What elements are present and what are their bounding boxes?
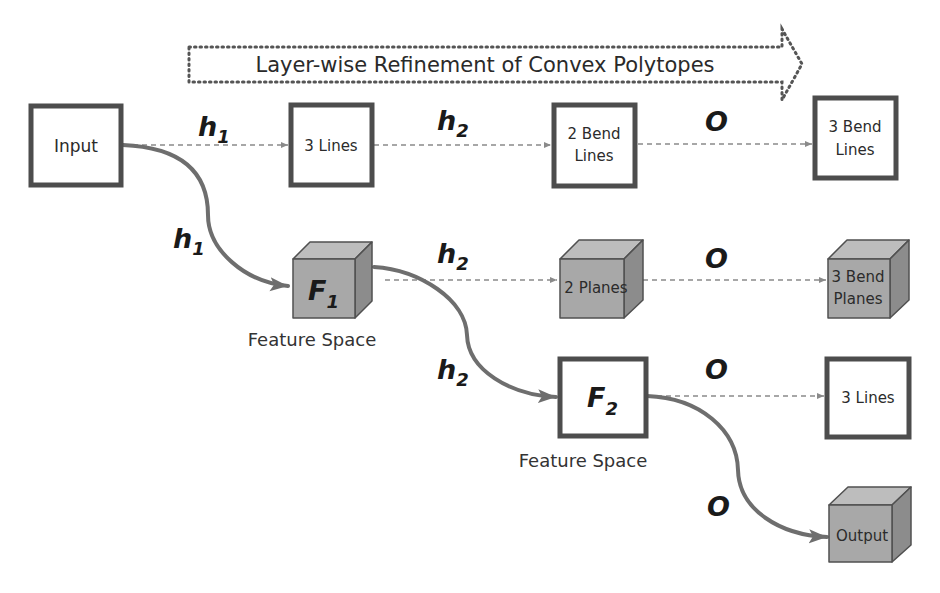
solid-curves [123, 145, 827, 537]
banner-title: Layer-wise Refinement of Convex Polytope… [255, 53, 714, 77]
node-row2-3-bend-planes-line1: 3 Bend [832, 268, 885, 286]
node-input: Input [31, 106, 121, 185]
node-row1-3-bend-lines-line2: Lines [835, 141, 874, 159]
node-f1-cube: F1 Feature Space [248, 242, 377, 350]
node-row2-2-planes-label: 2 Planes [564, 279, 627, 297]
node-f1-sub: 1 [326, 291, 339, 312]
label-curve-o: O [707, 491, 730, 522]
node-row3-3-lines: 3 Lines [827, 359, 909, 437]
node-row1-2-bend-lines-line2: Lines [574, 147, 613, 165]
node-f2-main: F [587, 382, 606, 413]
node-row1-3-lines: 3 Lines [291, 105, 372, 185]
label-curve-h1: h1 [173, 223, 205, 259]
node-output-cube: Output [829, 487, 911, 562]
node-row1-3-lines-label: 3 Lines [304, 137, 358, 155]
curve-input-to-f1 [123, 145, 288, 286]
node-row1-3-bend-lines: 3 Bend Lines [815, 98, 896, 178]
label-row1-h2: h2 [437, 105, 469, 141]
node-row3-3-lines-label: 3 Lines [841, 389, 895, 407]
curve-f2-to-output [647, 396, 827, 537]
polytope-refinement-diagram: Layer-wise Refinement of Convex Polytope… [0, 0, 940, 593]
label-row2-h2: h2 [437, 238, 469, 274]
node-row1-2-bend-lines: 2 Bend Lines [554, 105, 635, 186]
label-row3-o: O [705, 354, 728, 385]
node-input-label: Input [54, 136, 98, 156]
banner-arrow: Layer-wise Refinement of Convex Polytope… [189, 29, 802, 100]
node-row1-3-bend-lines-line1: 3 Bend [829, 118, 882, 136]
node-f2-caption: Feature Space [519, 450, 648, 471]
node-output-label: Output [836, 527, 888, 545]
node-row2-2-planes-cube: 2 Planes [560, 240, 643, 318]
node-row2-3-bend-planes-line2: Planes [834, 290, 883, 308]
node-row2-3-bend-planes-cube: 3 Bend Planes [828, 240, 909, 318]
label-curve-h2: h2 [437, 354, 469, 390]
node-f2-sub: 2 [605, 398, 618, 419]
label-row1-o: O [705, 106, 728, 137]
node-row1-2-bend-lines-line1: 2 Bend [568, 125, 621, 143]
label-row2-o: O [705, 243, 728, 274]
node-f2: F2 Feature Space [519, 359, 648, 471]
node-f1-main: F [308, 275, 327, 306]
label-row1-h1: h1 [198, 111, 230, 147]
node-f1-caption: Feature Space [248, 329, 377, 350]
